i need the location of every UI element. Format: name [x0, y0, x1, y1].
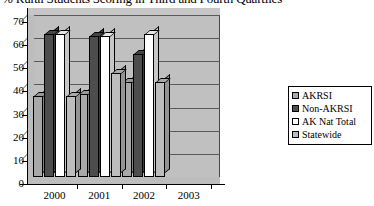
- x-axis-tick-label: 2002: [124, 190, 164, 201]
- y-axis-tickmark: [22, 184, 27, 185]
- bar-side-face: [165, 74, 170, 173]
- bar: [33, 96, 43, 177]
- bar: [44, 34, 54, 177]
- bar-front-face: [44, 34, 54, 177]
- bar-side-face: [121, 65, 126, 173]
- bar: [100, 36, 110, 177]
- legend-item: AK Nat Total: [292, 115, 368, 128]
- bar-side-face: [76, 88, 81, 173]
- legend-swatch-icon: [292, 131, 299, 138]
- plot-3d-box: [27, 8, 220, 184]
- y-axis-tickmark: [22, 115, 27, 116]
- chart-legend: AKRSINon-AKRSIAK Nat TotalStatewide: [288, 86, 372, 145]
- legend-swatch-icon: [292, 92, 299, 99]
- x-axis-tick-label: 2003: [169, 190, 209, 201]
- plot-floor-face: [27, 177, 220, 184]
- bar: [89, 36, 99, 177]
- bar-front-face: [55, 34, 65, 177]
- legend-item-label: AKRSI: [302, 91, 332, 101]
- y-axis-line: [27, 8, 28, 184]
- y-axis-tickmark: [22, 91, 27, 92]
- y-axis-tickmark: [22, 68, 27, 69]
- x-axis-tickmark: [77, 184, 78, 189]
- bar: [155, 82, 165, 177]
- legend-swatch-icon: [292, 118, 299, 125]
- bar: [111, 73, 121, 177]
- chart-title: % Rural Students Scoring in Third and Fo…: [2, 0, 302, 7]
- legend-item: Statewide: [292, 128, 368, 141]
- bar-front-face: [33, 96, 43, 177]
- y-axis-tickmark: [22, 45, 27, 46]
- x-axis-line: [20, 184, 225, 185]
- bar: [66, 96, 76, 177]
- y-axis-tickmark: [22, 138, 27, 139]
- x-axis-tickmark: [122, 184, 123, 189]
- bar-front-face: [89, 36, 99, 177]
- legend-item: AKRSI: [292, 89, 368, 102]
- legend-item-label: AK Nat Total: [302, 117, 356, 127]
- bar: [55, 34, 65, 177]
- legend-item-label: Non-AKRSI: [302, 104, 353, 114]
- legend-item: Non-AKRSI: [292, 102, 368, 115]
- bar-front-face: [111, 73, 121, 177]
- legend-item-label: Statewide: [302, 130, 341, 140]
- bar-front-face: [66, 96, 76, 177]
- x-axis-tickmark: [211, 184, 212, 189]
- legend-swatch-icon: [292, 105, 299, 112]
- plot-top-face: [27, 8, 220, 15]
- y-axis-tickmark: [22, 161, 27, 162]
- x-axis-tick-label: 2000: [34, 190, 74, 201]
- x-axis-tick-label: 2001: [79, 190, 119, 201]
- chart-container: % Rural Students Scoring in Third and Fo…: [0, 0, 374, 206]
- x-axis-labels: 2000200120022003: [27, 190, 227, 206]
- x-axis-tickmark: [166, 184, 167, 189]
- bar-front-face: [144, 34, 154, 177]
- bar: [133, 54, 143, 177]
- gridline: [34, 15, 220, 16]
- y-axis-tickmark: [22, 22, 27, 23]
- bar-front-face: [100, 36, 110, 177]
- y-axis-labels: 010203040506070: [0, 8, 24, 184]
- bar-front-face: [155, 82, 165, 177]
- bar: [144, 34, 154, 177]
- bar-front-face: [133, 54, 143, 177]
